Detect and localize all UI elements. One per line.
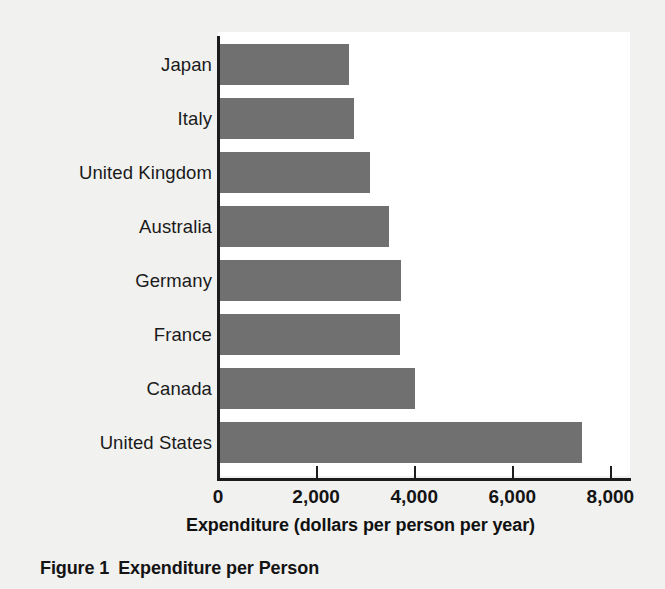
x-axis-tick-label: 2,000: [292, 487, 340, 506]
bar: [220, 98, 354, 139]
bar: [220, 152, 370, 193]
x-axis-tick: [512, 466, 514, 479]
category-label: Australia: [20, 218, 212, 237]
x-axis-tick-label: 0: [213, 487, 224, 506]
bars-layer: [220, 40, 632, 472]
figure-expenditure-per-person: JapanItalyUnited KingdomAustraliaGermany…: [0, 0, 665, 589]
x-axis-tick-label: 8,000: [587, 487, 635, 506]
category-label: United States: [20, 434, 212, 453]
category-axis: JapanItalyUnited KingdomAustraliaGermany…: [20, 40, 212, 472]
x-axis-tick: [414, 466, 416, 479]
bar: [220, 260, 401, 301]
x-axis-line: [217, 478, 631, 481]
figure-caption-number: Figure 1: [40, 558, 109, 578]
bar: [220, 206, 389, 247]
figure-caption: Figure 1Expenditure per Person: [40, 558, 319, 579]
bar: [220, 314, 400, 355]
category-label: Japan: [20, 56, 212, 75]
x-axis-tick-label: 6,000: [489, 487, 537, 506]
bar: [220, 422, 582, 463]
category-label: Germany: [20, 272, 212, 291]
category-label: Canada: [20, 380, 212, 399]
category-label: Italy: [20, 110, 212, 129]
x-axis-tick: [316, 466, 318, 479]
category-label: United Kingdom: [20, 164, 212, 183]
x-axis-tick: [610, 466, 612, 479]
bar: [220, 44, 349, 85]
y-axis-line: [217, 36, 220, 480]
x-axis-title: Expenditure (dollars per person per year…: [0, 515, 665, 536]
bar: [220, 368, 415, 409]
figure-caption-text: Expenditure per Person: [118, 558, 319, 578]
x-axis-tick-label: 4,000: [390, 487, 438, 506]
category-label: France: [20, 326, 212, 345]
